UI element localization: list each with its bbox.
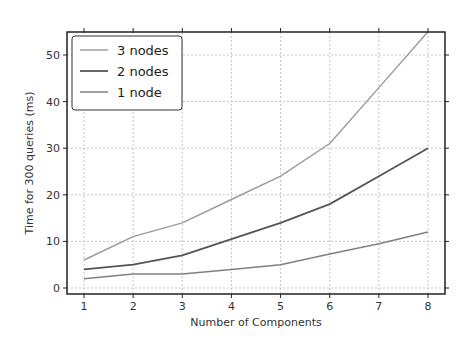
y-tick-label: 50 (46, 49, 60, 62)
x-tick-label: 3 (179, 300, 186, 313)
x-tick-label: 7 (375, 300, 382, 313)
x-axis-label: Number of Components (190, 316, 322, 329)
y-tick-label: 30 (46, 142, 60, 155)
line-chart: 1234567801020304050 3 nodes2 nodes1 node… (0, 0, 468, 346)
x-tick-label: 1 (81, 300, 88, 313)
x-tick-label: 6 (326, 300, 333, 313)
series-line-2-nodes (84, 148, 428, 269)
y-tick-label: 10 (46, 235, 60, 248)
x-tick-label: 8 (425, 300, 432, 313)
x-tick-label: 2 (130, 300, 137, 313)
y-tick-label: 20 (46, 189, 60, 202)
y-axis-label: Time for 300 queries (ms) (23, 92, 36, 236)
y-tick-label: 0 (53, 282, 60, 295)
legend: 3 nodes2 nodes1 node (72, 36, 182, 110)
x-tick-label: 5 (277, 300, 284, 313)
x-tick-label: 4 (228, 300, 235, 313)
legend-label: 2 nodes (117, 64, 169, 79)
legend-label: 3 nodes (117, 43, 169, 58)
legend-label: 1 node (117, 85, 162, 100)
series-line-1-node (84, 232, 428, 279)
y-tick-label: 40 (46, 96, 60, 109)
